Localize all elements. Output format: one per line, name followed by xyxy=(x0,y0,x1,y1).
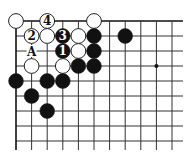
black-stone xyxy=(40,74,55,89)
white-stone xyxy=(24,59,39,74)
star-point-icon xyxy=(154,64,158,68)
move-number-1: 1 xyxy=(59,44,67,58)
black-stone xyxy=(9,74,24,89)
black-stone xyxy=(87,29,102,44)
move-number-2: 2 xyxy=(27,29,35,43)
black-stone xyxy=(24,89,39,104)
black-stone xyxy=(87,59,102,74)
black-stone xyxy=(118,29,133,44)
black-stone xyxy=(55,74,70,89)
white-stone xyxy=(71,44,86,59)
point-labels: A xyxy=(26,45,37,59)
move-number-3: 3 xyxy=(59,29,67,43)
point-label-a: A xyxy=(26,45,37,59)
black-stone xyxy=(40,104,55,119)
white-stone xyxy=(9,14,24,29)
black-stone xyxy=(71,59,86,74)
star-points xyxy=(154,64,158,68)
white-stone xyxy=(40,29,55,44)
black-stone xyxy=(87,44,102,59)
go-board: 4231 A xyxy=(0,0,194,157)
move-number-4: 4 xyxy=(43,14,51,28)
white-stone xyxy=(87,14,102,29)
white-stone xyxy=(71,29,86,44)
white-stone xyxy=(55,59,70,74)
